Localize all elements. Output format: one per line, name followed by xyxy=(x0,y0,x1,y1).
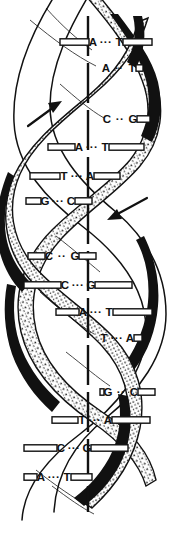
base-letter-left: G xyxy=(104,386,113,398)
base-pair-connector-right xyxy=(95,282,132,288)
hydrogen-bond-dots: ··· xyxy=(111,332,124,344)
base-pair-connector-right xyxy=(138,389,155,395)
base-pair: T···A xyxy=(100,332,134,344)
base-letter-left: A xyxy=(79,306,87,318)
base-pair: A···T xyxy=(37,471,71,483)
base-letter-left: C xyxy=(45,250,53,262)
base-letter-left: T xyxy=(100,332,107,344)
base-pair: G···C xyxy=(41,195,76,207)
base-pair-connector-left xyxy=(24,282,61,288)
base-pair-connector-left xyxy=(56,309,79,315)
hydrogen-bond-dots: ··· xyxy=(90,306,103,318)
hydrogen-bond-dots: ·· xyxy=(117,386,125,398)
base-pair-connector-right xyxy=(113,309,152,315)
base-pair-connector-right xyxy=(134,335,142,341)
base-pair-connector-left xyxy=(52,417,78,423)
base-letter-right: T xyxy=(128,62,135,74)
hydrogen-bond-dots: ·· xyxy=(116,113,124,125)
base-pair-connector-left xyxy=(26,198,41,204)
base-pair-connector-right xyxy=(75,198,92,204)
base-pair-connector-right xyxy=(109,144,144,150)
base-pair-connector-right xyxy=(91,445,128,451)
hydrogen-bond-dots: ··· xyxy=(100,36,113,48)
base-letter-right: T xyxy=(101,141,108,153)
base-pair: A··T xyxy=(102,62,136,74)
base-pair-connector-left xyxy=(28,253,45,259)
base-letter-right: C xyxy=(67,195,75,207)
hydrogen-bond-dots: ··· xyxy=(71,170,84,182)
base-pair-connector-right xyxy=(79,253,96,259)
base-pair: A···T xyxy=(79,306,113,318)
base-pair: G··C xyxy=(104,386,139,398)
base-letter-right: A xyxy=(126,332,134,344)
base-pair-connector-right xyxy=(71,474,92,480)
base-pair: C··G xyxy=(103,113,138,125)
base-letter-right: A xyxy=(86,170,94,182)
hydrogen-bond-dots: ··· xyxy=(52,195,65,207)
base-letter-right: T xyxy=(63,471,70,483)
base-pair-connector-right xyxy=(112,417,150,423)
hydrogen-bond-dots: ·· xyxy=(115,62,123,74)
base-letter-right: G xyxy=(83,442,92,454)
base-pair-connector-left xyxy=(30,173,60,179)
base-pair: A···T xyxy=(89,36,123,48)
dna-helix-figure: A···TA··TC··GA···TT···AG···CC··GC···GA··… xyxy=(0,0,171,538)
base-pair: A···T xyxy=(75,141,109,153)
dna-helix-illustration: A···TA··TC··GA···TT···AG···CC··GC···GA··… xyxy=(0,0,171,538)
base-pair: C···G xyxy=(57,442,92,454)
hydrogen-bond-dots: ··· xyxy=(68,442,81,454)
base-letter-left: T xyxy=(60,170,67,182)
base-pair-connector-left xyxy=(60,39,89,45)
base-pair-connector-left xyxy=(24,474,37,480)
hydrogen-bond-dots: ·· xyxy=(58,250,66,262)
base-letter-left: A xyxy=(89,36,97,48)
base-letter-left: A xyxy=(37,471,45,483)
hydrogen-bond-dots: ··· xyxy=(86,141,99,153)
base-letter-left: G xyxy=(41,195,50,207)
base-letter-right: G xyxy=(129,113,138,125)
base-letter-left: C xyxy=(57,442,65,454)
base-letter-left: A xyxy=(102,62,110,74)
base-pair-connector-right xyxy=(136,65,143,71)
base-pair-connector-right xyxy=(123,39,152,45)
base-pair: C··G xyxy=(45,250,80,262)
base-pair-connector-left xyxy=(48,144,75,150)
base-pair: T···A xyxy=(78,414,112,426)
base-pair: T···A xyxy=(60,170,94,182)
base-pair-connector-right xyxy=(137,116,150,122)
base-letter-right: G xyxy=(87,279,96,291)
base-pair-connector-right xyxy=(94,173,120,179)
base-letter-right: T xyxy=(115,36,122,48)
base-letter-right: T xyxy=(105,306,112,318)
hydrogen-bond-dots: ··· xyxy=(48,471,61,483)
base-pair: C···G xyxy=(61,279,96,291)
base-pair-connector-left xyxy=(24,445,57,451)
hydrogen-bond-dots: ··· xyxy=(89,414,102,426)
base-letter-left: C xyxy=(103,113,111,125)
base-letter-right: A xyxy=(104,414,112,426)
hydrogen-bond-dots: ··· xyxy=(72,279,85,291)
base-letter-right: G xyxy=(71,250,80,262)
base-letter-left: T xyxy=(78,414,85,426)
base-letter-left: C xyxy=(61,279,69,291)
base-letter-right: C xyxy=(130,386,138,398)
base-letter-left: A xyxy=(75,141,83,153)
